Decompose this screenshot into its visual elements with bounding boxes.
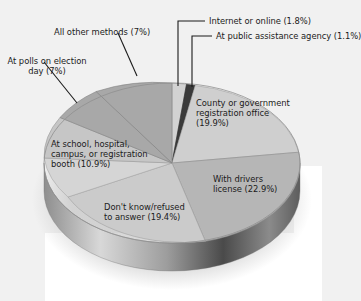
leader-line-all-other-methods — [118, 33, 137, 76]
label-school-line1: At school, hospital, — [51, 139, 130, 149]
label-dontknow-line2: to answer (19.4%) — [104, 212, 180, 222]
label-drivers-line1: With drivers — [213, 174, 263, 184]
label-county-line2: registration office — [196, 108, 269, 118]
label-at-polls-line1: At polls on election — [4, 56, 90, 66]
label-at-polls-line2: day (7%) — [4, 66, 90, 76]
label-school-line3: booth (10.9%) — [51, 159, 110, 169]
label-drivers-line2: license (22.9%) — [213, 184, 277, 194]
label-county-line1: County or government — [196, 98, 290, 108]
label-public-assistance-agency: At public assistance agency (1.1%) — [216, 31, 361, 41]
leader-line-public-assistance — [192, 36, 212, 87]
label-school-line2: campus, or registration — [51, 149, 148, 159]
label-county-line3: (19.9%) — [196, 118, 229, 128]
label-all-other-methods: All other methods (7%) — [54, 27, 150, 37]
label-dontknow-line1: Don't know/refused — [104, 202, 185, 212]
label-internet-or-online: Internet or online (1.8%) — [209, 16, 311, 26]
